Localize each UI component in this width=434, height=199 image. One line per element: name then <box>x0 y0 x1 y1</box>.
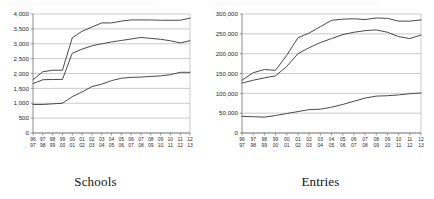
x-tick-label: 1112 <box>407 136 413 148</box>
x-tick-label: 9697 <box>239 136 245 148</box>
data-series-line <box>242 18 421 80</box>
x-tick-label: 0001 <box>284 136 290 148</box>
y-tick-label: 150,000 <box>216 70 239 77</box>
figure-root: 05001,0001,5002,0002,5003,0003,5004,0009… <box>0 0 434 199</box>
x-tick-label: 0304 <box>99 136 105 148</box>
x-tick-label: 0809 <box>148 136 154 148</box>
y-tick-label: 0 <box>235 129 239 136</box>
x-tick-label: 0203 <box>306 136 312 148</box>
y-tick-label: 3,000 <box>14 40 30 47</box>
x-tick-label: 1112 <box>177 136 183 148</box>
y-tick-label: 200,000 <box>216 50 239 57</box>
chart-panel-entries: 050,000100,000150,000200,000250,000300,0… <box>197 0 434 199</box>
y-tick-label: 0 <box>26 129 30 136</box>
x-tick-label: 0607 <box>128 136 134 148</box>
y-tick-label: 300,000 <box>216 10 239 17</box>
x-tick-label: 0001 <box>69 136 75 148</box>
y-tick-label: 1,500 <box>14 85 30 92</box>
x-tick-label: 9697 <box>30 136 36 148</box>
x-tick-label: 0910 <box>385 136 391 148</box>
x-tick-label: 0809 <box>373 136 379 148</box>
x-tick-label: 1213 <box>418 136 424 148</box>
x-tick-label: 9900 <box>60 136 66 148</box>
x-tick-label: 0405 <box>329 136 335 148</box>
schools-line-chart: 05001,0001,5002,0002,5003,0003,5004,0009… <box>0 0 197 172</box>
x-tick-label: 0304 <box>318 136 324 148</box>
x-tick-label: 9798 <box>40 136 46 148</box>
x-tick-label: 9899 <box>262 136 268 148</box>
y-tick-label: 2,500 <box>14 55 30 62</box>
x-tick-label: 1213 <box>187 136 193 148</box>
x-tick-label: 1011 <box>396 136 402 148</box>
y-tick-label: 250,000 <box>216 30 239 37</box>
x-tick-label: 0102 <box>295 136 301 148</box>
x-tick-label: 9899 <box>50 136 56 148</box>
y-tick-label: 2,000 <box>14 70 30 77</box>
data-series-line <box>33 38 190 84</box>
y-tick-label: 3,500 <box>14 25 30 32</box>
panel-caption-schools: Schools <box>0 174 197 190</box>
x-tick-label: 0405 <box>109 136 115 148</box>
x-tick-label: 1011 <box>168 136 174 148</box>
x-tick-label: 0506 <box>119 136 125 148</box>
x-tick-label: 0102 <box>79 136 85 148</box>
chart-panel-schools: 05001,0001,5002,0002,5003,0003,5004,0009… <box>0 0 197 199</box>
x-tick-label: 0203 <box>89 136 95 148</box>
x-tick-label: 0708 <box>138 136 144 148</box>
data-series-line <box>242 30 421 83</box>
y-tick-label: 100,000 <box>216 90 239 97</box>
panel-caption-entries: Entries <box>197 174 434 190</box>
x-tick-label: 9900 <box>273 136 279 148</box>
y-tick-label: 500 <box>19 114 30 121</box>
x-tick-label: 0910 <box>158 136 164 148</box>
entries-line-chart: 050,000100,000150,000200,000250,000300,0… <box>197 0 434 172</box>
x-tick-label: 0708 <box>362 136 368 148</box>
x-tick-label: 0607 <box>351 136 357 148</box>
x-tick-label: 0506 <box>340 136 346 148</box>
y-tick-label: 1,000 <box>14 99 30 106</box>
y-tick-label: 4,000 <box>14 10 30 17</box>
x-tick-label: 9798 <box>250 136 256 148</box>
data-series-line <box>33 18 190 80</box>
y-tick-label: 50,000 <box>219 109 238 116</box>
